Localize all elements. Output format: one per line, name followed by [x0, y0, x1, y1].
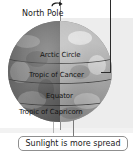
caption-text: Sunlight is more spread: [26, 139, 121, 148]
caption-callout-box: Sunlight is more spread: [18, 136, 128, 151]
diagram-canvas: Arctic Circle Tropic of Cancer Equator T…: [0, 0, 133, 153]
label-arctic-circle: Arctic Circle: [40, 51, 80, 59]
leader-line-right-horizontal: [101, 72, 111, 73]
sunlight-band-lower: [0, 128, 133, 133]
rotation-arrow-icon: [49, 0, 65, 9]
leader-line-bottom-secondary: [53, 122, 54, 133]
leader-line-right-vertical: [110, 0, 111, 73]
north-pole-label: North Pole: [22, 9, 64, 18]
label-equator: Equator: [46, 92, 73, 100]
label-tropic-of-cancer: Tropic of Cancer: [29, 71, 84, 79]
label-tropic-of-capricorn: Tropic of Capricorn: [19, 108, 83, 116]
